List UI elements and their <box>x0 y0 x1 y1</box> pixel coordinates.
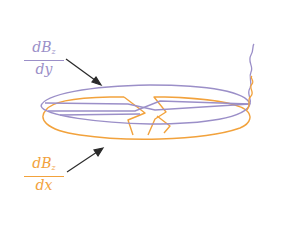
purple-loop <box>41 85 250 124</box>
label-dbz-dy: dBz dy <box>24 40 64 77</box>
label-dy-denominator: dy <box>24 62 64 77</box>
label-dx-numerator: dBz <box>24 156 64 175</box>
orange-zigzag-left <box>124 97 145 135</box>
label-dx-num-sub: z <box>52 163 56 172</box>
label-dx-denominator: dx <box>24 178 64 193</box>
label-dy-numerator: dBz <box>24 40 64 59</box>
arrow-dx <box>67 148 103 172</box>
label-dbz-dx: dBz dx <box>24 156 64 193</box>
label-dx-num-base: dB <box>32 155 51 171</box>
purple-chord-mid <box>60 114 140 115</box>
arrow-dy <box>66 59 101 85</box>
label-dy-num-base: dB <box>32 39 51 55</box>
label-dy-num-sub: z <box>52 47 56 56</box>
